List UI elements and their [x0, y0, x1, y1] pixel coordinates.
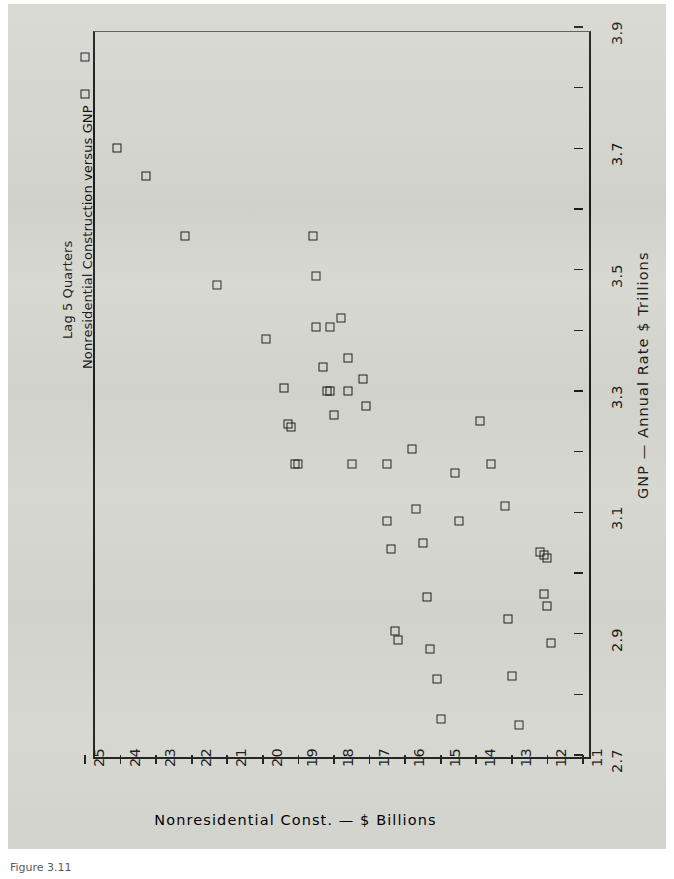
x-tick-label: 22: [198, 748, 214, 767]
x-tick: [120, 755, 122, 764]
y-tick: [574, 148, 583, 150]
x-tick: [191, 755, 193, 764]
x-tick-label: 17: [376, 748, 392, 767]
data-point: [294, 459, 303, 468]
data-point: [422, 593, 431, 602]
y-tick-label: 3.3: [609, 385, 625, 409]
y-tick-label: 2.7: [609, 749, 625, 773]
data-point: [262, 335, 271, 344]
x-tick: [582, 755, 584, 764]
data-point: [330, 411, 339, 420]
data-point: [390, 626, 399, 635]
data-point: [81, 89, 90, 98]
x-tick-label: 11: [589, 748, 605, 767]
data-point: [326, 323, 335, 332]
data-point: [383, 517, 392, 526]
data-point: [450, 468, 459, 477]
x-tick: [298, 755, 300, 764]
x-tick-label: 16: [411, 748, 427, 767]
data-point: [319, 362, 328, 371]
x-tick: [333, 755, 335, 764]
data-point: [408, 444, 417, 453]
data-point: [113, 144, 122, 153]
x-tick-label: 15: [447, 748, 463, 767]
y-tick: [574, 87, 583, 89]
y-tick-label: 2.9: [609, 628, 625, 652]
x-tick: [369, 755, 371, 764]
x-tick-label: 24: [127, 748, 143, 767]
y-tick-label: 3.7: [609, 143, 625, 167]
y-tick: [574, 390, 583, 392]
figure-page: 2524232221201918171615141312112.72.93.13…: [0, 0, 674, 879]
data-point: [504, 614, 513, 623]
x-tick-label: 13: [518, 748, 534, 767]
data-point: [308, 232, 317, 241]
y-tick-label: 3.5: [609, 264, 625, 288]
data-point: [547, 638, 556, 647]
y-tick: [574, 330, 583, 332]
data-point: [344, 353, 353, 362]
data-point: [347, 459, 356, 468]
x-tick: [404, 755, 406, 764]
x-tick-label: 20: [269, 748, 285, 767]
data-point: [362, 402, 371, 411]
data-point: [180, 232, 189, 241]
data-point: [475, 417, 484, 426]
x-tick: [84, 755, 86, 764]
y-tick: [574, 451, 583, 453]
data-point: [212, 280, 221, 289]
nonresidential-axis-title: Nonresidential Const. — $ Billions: [8, 812, 583, 828]
data-point: [454, 517, 463, 526]
y-tick: [574, 572, 583, 574]
x-tick-label: 21: [233, 748, 249, 767]
data-point: [433, 675, 442, 684]
gnp-axis-title: GNP — Annual Rate $ Trillions: [635, 251, 651, 499]
data-point: [394, 635, 403, 644]
data-point: [539, 590, 548, 599]
y-tick-label: 3.1: [609, 507, 625, 531]
data-point: [543, 553, 552, 562]
x-tick-label: 25: [91, 748, 107, 767]
x-tick-label: 12: [553, 748, 569, 767]
x-tick: [155, 755, 157, 764]
data-point: [436, 714, 445, 723]
data-point: [141, 171, 150, 180]
x-tick: [262, 755, 264, 764]
y-tick: [574, 269, 583, 271]
data-point: [81, 53, 90, 62]
x-tick-label: 19: [304, 748, 320, 767]
data-point: [411, 505, 420, 514]
data-point: [287, 423, 296, 432]
data-point: [543, 602, 552, 611]
x-tick: [547, 755, 549, 764]
data-point: [383, 459, 392, 468]
y-tick: [574, 694, 583, 696]
x-tick: [511, 755, 513, 764]
x-tick: [226, 755, 228, 764]
chart-title-line1: Nonresidential Construction versus GNP: [80, 105, 95, 369]
x-tick: [440, 755, 442, 764]
data-point: [486, 459, 495, 468]
data-point: [507, 672, 516, 681]
x-tick-label: 18: [340, 748, 356, 767]
data-point: [426, 644, 435, 653]
x-tick-label: 14: [482, 748, 498, 767]
y-tick: [574, 208, 583, 210]
y-tick-label: 3.9: [609, 21, 625, 45]
figure-caption: Figure 3.11: [10, 861, 72, 874]
y-tick: [574, 512, 583, 514]
data-point: [386, 544, 395, 553]
data-point: [344, 387, 353, 396]
scatter-plot-area: [93, 31, 591, 759]
scanned-page-background: 2524232221201918171615141312112.72.93.13…: [8, 4, 666, 849]
data-point: [326, 387, 335, 396]
data-point: [312, 323, 321, 332]
y-tick: [574, 26, 583, 28]
data-point: [358, 374, 367, 383]
data-point: [337, 314, 346, 323]
data-point: [500, 502, 509, 511]
data-point: [312, 271, 321, 280]
chart-title-line2: Lag 5 Quarters: [60, 241, 75, 339]
data-point: [418, 538, 427, 547]
y-tick: [574, 754, 583, 756]
